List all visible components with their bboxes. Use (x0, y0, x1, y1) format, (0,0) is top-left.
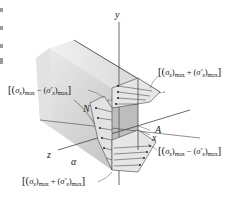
point-a-label: A (155, 125, 161, 135)
label-stress-top-right: [(σx)max + (σ′x)max] (158, 66, 221, 78)
z-axis-label: z (47, 150, 51, 160)
angle-alpha-label: α (71, 157, 76, 167)
diagram-canvas (0, 0, 247, 198)
cropped-text-fragment (0, 44, 3, 48)
y-axis-label: y (115, 10, 119, 20)
neutral-axis-label: N (83, 104, 90, 114)
cropped-text-fragment (0, 8, 3, 12)
cropped-text-fragment (0, 58, 3, 64)
label-stress-bottom-right: [(σx)max − (σ′x)max] (158, 145, 221, 157)
label-stress-bottom-left: [(σx)max + (σ′x)max] (22, 175, 85, 187)
label-stress-top-left: [(σx)max − (σ′x)max] (8, 84, 71, 96)
stress-diagram: y z x A N α [(σx)max − (σ′x)max] [(σx)ma… (0, 0, 247, 198)
cropped-text-fragment (0, 26, 3, 30)
